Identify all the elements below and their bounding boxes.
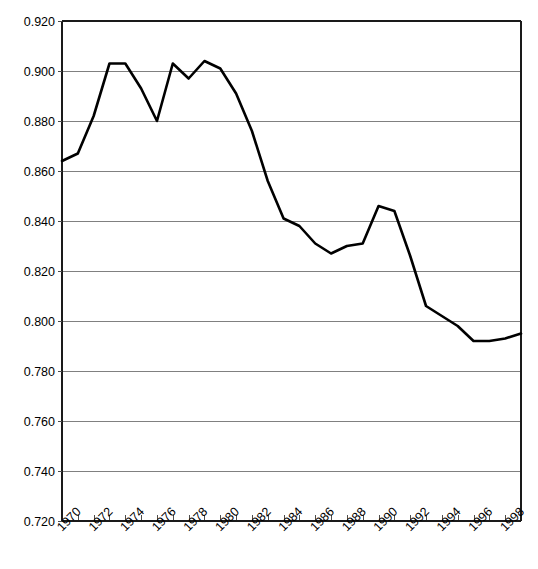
y-tick-label: 0.740: [24, 465, 55, 479]
x-tick-label: 1988: [339, 505, 369, 535]
y-tick-label: 0.780: [24, 365, 55, 379]
y-tick-label: 0.760: [24, 415, 55, 429]
x-tick-label: 1986: [307, 505, 337, 535]
x-tick-label: 1978: [181, 505, 211, 535]
y-tick-label: 0.720: [24, 515, 55, 529]
y-tick-label: 0.900: [24, 65, 55, 79]
y-tick-label: 0.920: [24, 15, 55, 29]
line-chart: 0.9200.9000.8800.8600.8400.8200.8000.780…: [0, 0, 538, 569]
x-tick-label: 1992: [402, 505, 432, 535]
x-tick-label: 1974: [118, 505, 148, 535]
y-axis-labels: 0.9200.9000.8800.8600.8400.8200.8000.780…: [24, 15, 62, 529]
x-tick-label: 1976: [149, 505, 179, 535]
x-tick-label: 1972: [86, 505, 116, 535]
y-tick-label: 0.840: [24, 215, 55, 229]
x-tick-label: 1984: [276, 505, 306, 535]
x-axis-labels: 1970197219741976197819801982198419861988…: [54, 505, 527, 535]
y-tick-label: 0.860: [24, 165, 55, 179]
x-tick-label: 1990: [371, 505, 401, 535]
series-line-series-1: [62, 61, 521, 341]
y-tick-label: 0.800: [24, 315, 55, 329]
x-tick-label: 1994: [434, 505, 464, 535]
x-tick-label: 1998: [497, 505, 527, 535]
x-tick-label: 1970: [54, 505, 84, 535]
y-tick-label: 0.820: [24, 265, 55, 279]
gridlines: [62, 72, 521, 472]
y-tick-label: 0.880: [24, 115, 55, 129]
x-tick-label: 1982: [244, 505, 274, 535]
x-tick-label: 1980: [212, 505, 242, 535]
data-series: [62, 61, 521, 341]
x-tick-label: 1996: [466, 505, 496, 535]
chart-canvas: 0.9200.9000.8800.8600.8400.8200.8000.780…: [0, 0, 538, 569]
